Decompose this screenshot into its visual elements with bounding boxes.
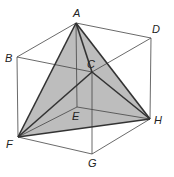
vertex-label-E: E (72, 110, 80, 122)
vertex-label-H: H (154, 114, 162, 126)
cube-edge-AD (76, 23, 151, 38)
cube-edge-FG (18, 137, 92, 154)
vertex-label-C: C (87, 58, 95, 70)
vertex-label-G: G (88, 157, 97, 169)
cube-edge-DH (150, 38, 151, 119)
vertex-label-B: B (5, 52, 12, 64)
vertex-label-F: F (6, 138, 14, 150)
vertex-label-A: A (72, 7, 80, 19)
vertex-label-D: D (152, 23, 160, 35)
cube-edge-BF (17, 57, 18, 137)
cube-tetrahedron-diagram: ABCDEFGH (0, 0, 174, 177)
